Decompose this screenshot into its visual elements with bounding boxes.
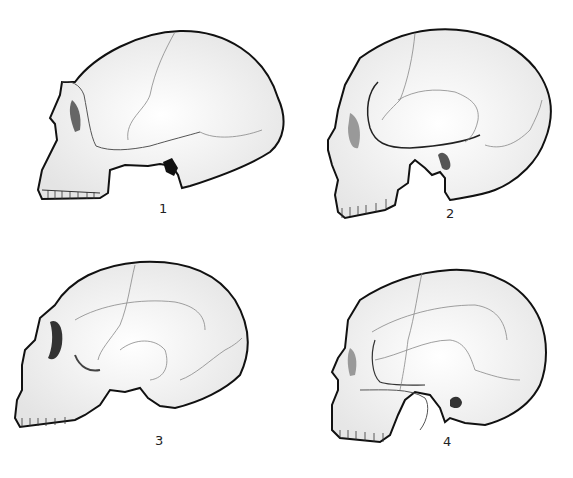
figure-label-1: 1 xyxy=(159,201,167,216)
figure-label-4: 4 xyxy=(443,434,451,449)
skull-4-drawing xyxy=(290,240,573,478)
skull-1-drawing xyxy=(0,0,290,240)
skull-figure-2: 2 xyxy=(290,0,573,240)
skull-figure-4: 4 xyxy=(290,240,573,478)
skull-3-drawing xyxy=(0,240,290,478)
skull-2-drawing xyxy=(290,0,573,240)
skull-figure-1: 1 xyxy=(0,0,290,240)
figure-label-3: 3 xyxy=(155,433,163,448)
skull-figure-3: 3 xyxy=(0,240,290,478)
figure-label-2: 2 xyxy=(446,206,454,221)
